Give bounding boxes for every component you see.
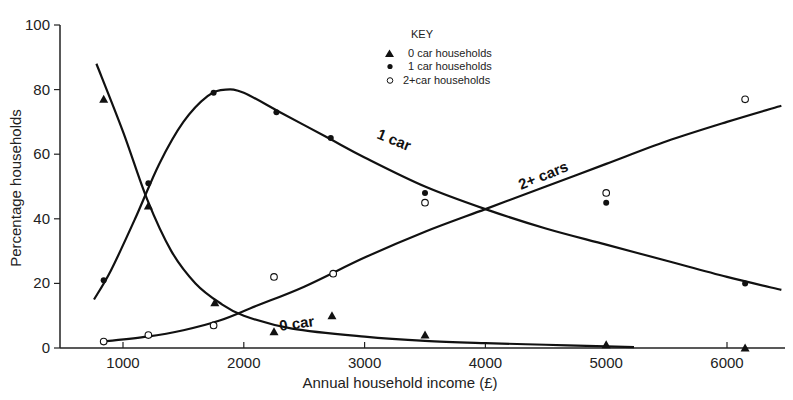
filled-triangle-icon [385, 50, 394, 58]
legend-item-0-car: 0 car households [385, 47, 492, 59]
curve-labels: 0 car 1 car 2+ cars [278, 125, 570, 334]
y-tick-label: 40 [33, 210, 50, 227]
open-circle-marker [145, 332, 152, 339]
x-tick-label: 6000 [710, 354, 743, 371]
fit-curves [94, 64, 781, 347]
triangle-marker [327, 311, 336, 319]
fit-curve-0-car [96, 64, 634, 347]
open-circle-marker [422, 199, 429, 206]
x-axis-title: Annual household income (£) [302, 374, 497, 391]
legend-label: 0 car households [408, 47, 492, 59]
legend-label: 1 car households [408, 60, 492, 72]
y-tick-label: 60 [33, 145, 50, 162]
filled-circle-icon [387, 64, 392, 69]
legend-item-1-car: 1 car households [387, 60, 492, 72]
open-circle-icon [387, 78, 393, 84]
filled-circle-marker [742, 280, 748, 286]
filled-circle-marker [273, 109, 279, 115]
triangle-marker [270, 327, 279, 335]
legend-label: 2+car households [403, 74, 491, 86]
triangle-marker [99, 95, 108, 103]
filled-circle-marker [101, 277, 107, 283]
open-circle-marker [271, 274, 278, 281]
curve-label-1-car: 1 car [375, 125, 414, 154]
chart: 020406080100 100020003000400050006000 An… [0, 0, 793, 400]
y-tick-label: 80 [33, 81, 50, 98]
filled-circle-marker [422, 190, 428, 196]
open-circle-marker [100, 338, 107, 345]
open-circle-marker [330, 270, 337, 277]
y-axis-title: Percentage households [7, 109, 24, 267]
filled-circle-marker [145, 180, 151, 186]
legend-title: KEY [411, 28, 434, 40]
x-tick-label: 1000 [106, 354, 139, 371]
axes: 020406080100 100020003000400050006000 An… [7, 16, 785, 391]
open-circle-marker [603, 190, 610, 197]
y-tick-label: 0 [42, 339, 50, 356]
y-tick-label: 100 [25, 16, 50, 33]
triangle-marker [602, 340, 611, 348]
x-tick-label: 5000 [590, 354, 623, 371]
data-markers [99, 90, 749, 352]
fit-curve-1-car [94, 89, 781, 299]
open-circle-marker [210, 322, 217, 329]
fit-curve-2-cars [104, 106, 782, 342]
x-ticks: 100020003000400050006000 [106, 342, 743, 371]
x-tick-label: 2000 [227, 354, 260, 371]
x-tick-label: 4000 [469, 354, 502, 371]
filled-circle-marker [211, 90, 217, 96]
x-tick-label: 3000 [348, 354, 381, 371]
filled-circle-marker [603, 200, 609, 206]
legend-item-2-car: 2+car households [387, 74, 490, 86]
triangle-marker [421, 331, 430, 339]
y-ticks: 020406080100 [25, 16, 60, 356]
filled-circle-marker [328, 135, 334, 141]
y-tick-label: 20 [33, 274, 50, 291]
open-circle-marker [742, 96, 749, 103]
triangle-marker [144, 201, 153, 209]
legend: KEY 0 car households 1 car households 2+… [385, 28, 492, 86]
